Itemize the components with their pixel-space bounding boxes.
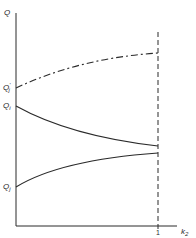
label-q-i: Qi <box>3 101 11 111</box>
label-q-prime-j: Q'j <box>3 82 11 93</box>
x-tick-label-1: 1 <box>156 229 160 236</box>
curve-q-prime-j <box>16 53 158 88</box>
curve-q-j <box>16 153 158 187</box>
y-axis-label: Q <box>4 8 10 17</box>
label-q-j: Qj <box>3 182 11 192</box>
x-axis-label: k2 <box>181 227 189 237</box>
diagram-canvas: Q Q'j Qi Qj 1 k2 <box>0 0 196 238</box>
curve-q-i <box>16 106 158 146</box>
